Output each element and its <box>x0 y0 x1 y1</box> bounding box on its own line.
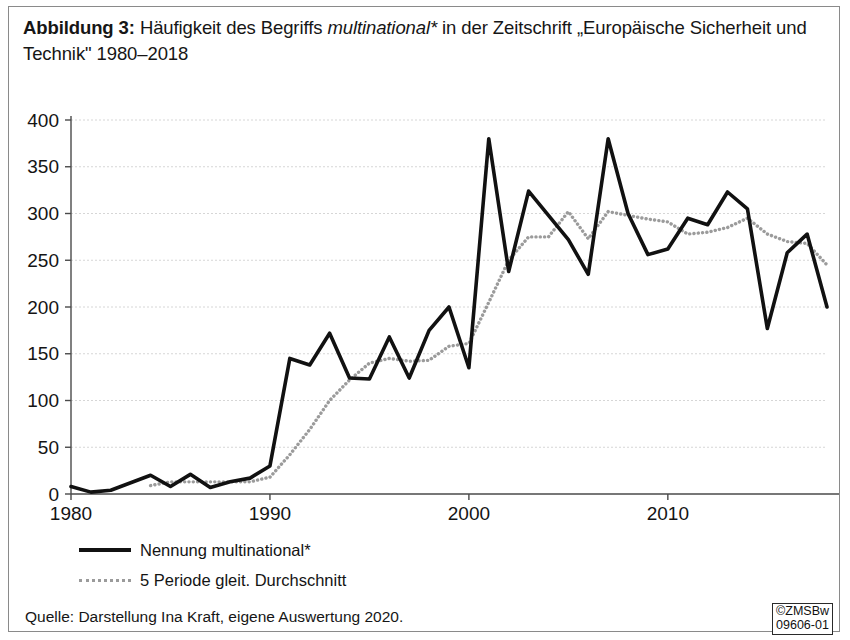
chart-series-lines <box>71 139 827 492</box>
copyright-stamp-owner: ©ZMSBw <box>776 605 829 619</box>
legend-item-average: 5 Periode gleit. Durchschnitt <box>79 565 679 595</box>
copyright-stamp-number: 09606-01 <box>776 619 829 633</box>
y-tick-label-100: 100 <box>27 390 59 411</box>
figure-frame: Abbildung 3: Häufigkeit des Begriffs mul… <box>8 6 840 632</box>
x-tick-label-1980: 1980 <box>50 503 92 523</box>
y-tick-label-300: 300 <box>27 203 59 224</box>
y-tick-label-50: 50 <box>38 437 59 458</box>
y-tick-label-350: 350 <box>27 156 59 177</box>
copyright-stamp: ©ZMSBw 09606-01 <box>772 603 833 635</box>
source-note: Quelle: Darstellung Ina Kraft, eigene Au… <box>25 608 403 626</box>
y-tick-label-250: 250 <box>27 250 59 271</box>
chart-legend: Nennung multinational* 5 Periode gleit. … <box>79 535 679 595</box>
caption-figure-number: Abbildung 3: <box>23 17 135 38</box>
chart-y-tick-marks <box>65 120 71 494</box>
y-tick-label-150: 150 <box>27 343 59 364</box>
caption-italic-term: multinational* <box>327 17 437 38</box>
x-tick-label-1990: 1990 <box>249 503 291 523</box>
chart-plot-area: 050100150200250300350400 198019902000201… <box>9 103 841 523</box>
chart-x-tick-labels: 1980199020002010 <box>50 503 689 523</box>
series-line-mentions <box>71 139 827 492</box>
legend-average-label: 5 Periode gleit. Durchschnitt <box>140 571 346 590</box>
chart-x-tick-marks <box>71 494 668 500</box>
series-line-moving-average <box>151 212 827 486</box>
legend-item-series: Nennung multinational* <box>79 535 679 565</box>
y-tick-label-400: 400 <box>27 110 59 131</box>
legend-solid-line-icon <box>79 548 131 552</box>
legend-dotted-line-icon <box>79 579 131 582</box>
y-tick-label-0: 0 <box>48 484 59 505</box>
figure-caption: Abbildung 3: Häufigkeit des Begriffs mul… <box>23 15 823 67</box>
line-chart-svg: 050100150200250300350400 198019902000201… <box>9 103 841 523</box>
chart-gridlines <box>71 120 827 447</box>
caption-text-before: Häufigkeit des Begriffs <box>135 17 328 38</box>
legend-series-label: Nennung multinational* <box>140 541 311 560</box>
x-tick-label-2010: 2010 <box>647 503 689 523</box>
chart-axes <box>71 116 839 494</box>
x-tick-label-2000: 2000 <box>448 503 490 523</box>
chart-y-tick-labels: 050100150200250300350400 <box>27 110 59 505</box>
y-tick-label-200: 200 <box>27 297 59 318</box>
